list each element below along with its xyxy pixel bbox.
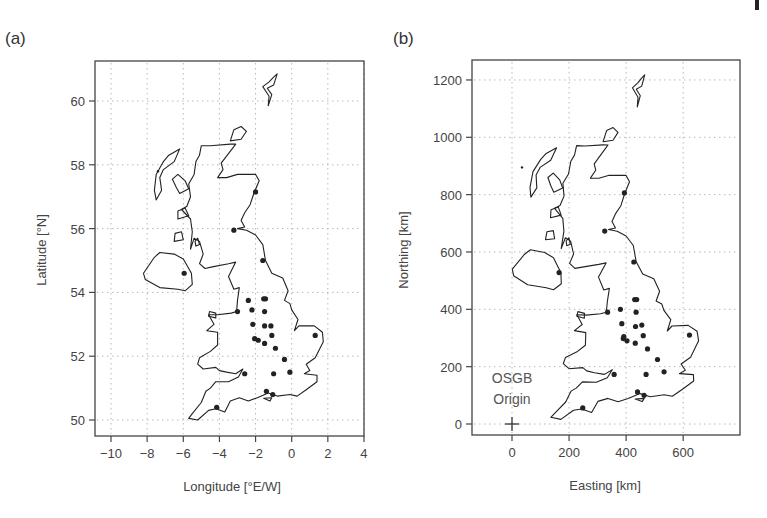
y-tick-label: 58 [71, 158, 85, 173]
panel-b-label: (b) [393, 29, 414, 48]
station-point [263, 296, 268, 301]
station-point [633, 324, 638, 329]
station-point [634, 297, 639, 302]
station-point [262, 323, 267, 328]
panel-a-plot-frame [95, 61, 364, 436]
station-point [157, 170, 159, 172]
coastline-skye [548, 173, 563, 192]
station-point [282, 357, 287, 362]
x-tick-label: −8 [140, 446, 155, 461]
x-tick-label: −2 [248, 446, 263, 461]
station-point [273, 346, 278, 351]
osgb-origin-annotation: OSGB Origin [492, 370, 532, 431]
station-point [253, 189, 258, 194]
station-point [612, 372, 617, 377]
x-tick-label: 0 [288, 446, 295, 461]
station-point [182, 271, 187, 276]
y-tick-label: 52 [71, 349, 85, 364]
figure-root: (a) −10−8−6−4−2024 505254565860 Longitud… [0, 0, 767, 518]
panel-b-x-axis-title: Easting [km] [569, 478, 641, 493]
station-point [242, 371, 247, 376]
station-point [214, 405, 219, 410]
x-tick-label: 400 [615, 445, 637, 460]
station-point [631, 259, 636, 264]
panel-a-x-axis-title: Longitude [°E/W] [183, 479, 281, 494]
station-point [256, 338, 261, 343]
station-point [246, 298, 251, 303]
y-tick-label: 400 [440, 302, 462, 317]
station-point [619, 321, 624, 326]
station-point [605, 310, 610, 315]
page-corner-mark [755, 0, 759, 10]
panel-b-y-axis-title: Northing [km] [396, 211, 411, 288]
station-point [618, 307, 623, 312]
station-point [661, 369, 666, 374]
panel-b-station-points [521, 166, 692, 410]
y-tick-label: 1200 [433, 73, 462, 88]
station-point [264, 389, 269, 394]
coastline-gb [182, 144, 324, 420]
station-point [641, 333, 646, 338]
station-point [249, 307, 254, 312]
x-tick-label: 600 [672, 445, 694, 460]
coastline-ni [512, 250, 561, 290]
panel-b: (b) OSGB Origin 0200400600 0200400600800… [393, 29, 740, 493]
x-tick-label: −6 [176, 446, 191, 461]
y-tick-label: 600 [440, 245, 462, 260]
station-point [231, 228, 236, 233]
station-point [633, 341, 638, 346]
panel-b-coastline-map [512, 75, 698, 420]
panel-a-label: (a) [5, 29, 26, 48]
y-tick-label: 0 [455, 417, 462, 432]
coastline-islay [546, 231, 555, 240]
station-point [556, 270, 561, 275]
station-point [268, 323, 273, 328]
station-point [624, 338, 629, 343]
coastline-orkney [603, 128, 618, 142]
station-point [262, 341, 267, 346]
panel-a-coastline-map [144, 74, 324, 420]
x-tick-label: 4 [360, 446, 367, 461]
y-tick-label: 54 [71, 285, 85, 300]
coastline-orkney [230, 127, 246, 141]
osgb-origin-label-line2: Origin [493, 391, 530, 407]
station-point [287, 370, 292, 375]
coastline-hebrides [154, 149, 179, 200]
x-tick-label: −4 [212, 446, 227, 461]
coastline-mull [551, 207, 562, 218]
station-point [634, 310, 639, 315]
station-point [521, 166, 523, 168]
x-tick-label: 2 [324, 446, 331, 461]
panel-a-x-axis: −10−8−6−4−2024 [100, 436, 368, 461]
panel-a: (a) −10−8−6−4−2024 505254565860 Longitud… [5, 29, 368, 494]
coastline-wight [635, 398, 644, 401]
station-point [313, 333, 318, 338]
coastline-shetland [263, 74, 277, 106]
osgb-origin-cross-icon [505, 417, 519, 431]
panel-b-y-axis: 020040060080010001200 [433, 73, 472, 432]
y-tick-label: 1000 [433, 130, 462, 145]
station-point [655, 357, 660, 362]
coastline-gb [551, 145, 699, 420]
coastline-skye [172, 174, 188, 193]
station-point [639, 322, 644, 327]
coastline-islay [174, 232, 183, 242]
osgb-origin-label-line1: OSGB [492, 370, 532, 386]
panel-b-x-axis: 0200400600 [508, 435, 694, 460]
station-point [262, 309, 267, 314]
x-tick-label: 200 [558, 445, 580, 460]
station-point [271, 371, 276, 376]
x-tick-label: −10 [100, 446, 122, 461]
y-tick-label: 800 [440, 188, 462, 203]
panel-a-gridlines [97, 63, 364, 434]
y-tick-label: 50 [71, 413, 85, 428]
station-point [235, 309, 240, 314]
station-point [622, 190, 627, 195]
panel-a-y-axis: 505254565860 [71, 94, 95, 428]
y-tick-label: 60 [71, 94, 85, 109]
station-point [643, 372, 648, 377]
station-point [580, 405, 585, 410]
y-tick-label: 200 [440, 360, 462, 375]
station-point [635, 389, 640, 394]
station-point [260, 258, 265, 263]
